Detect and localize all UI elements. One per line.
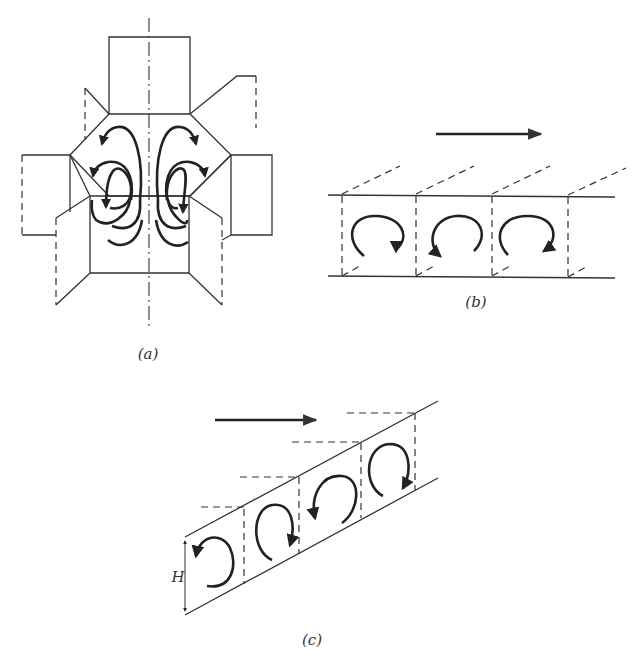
roll-cells-c — [196, 444, 409, 586]
channel-bottom-wall — [328, 276, 615, 278]
panel-b-label: (b) — [465, 293, 486, 311]
panel-c-label: (c) — [302, 631, 322, 649]
panel-a: (a) — [22, 18, 272, 363]
panel-b: (b) — [328, 134, 626, 311]
panel-a-label: (a) — [138, 345, 159, 363]
channel-lower-wall — [185, 478, 438, 615]
channel-upper-wall — [185, 401, 438, 537]
hexagon-face — [70, 114, 231, 196]
figure-canvas: (a) (b) — [0, 0, 644, 660]
channel-top-wall — [328, 195, 615, 197]
roll-cells — [352, 216, 553, 256]
height-label: H — [170, 568, 185, 586]
vortex-arrows-right — [156, 127, 205, 246]
right-face — [231, 155, 272, 235]
panel-c: H (c) — [170, 401, 438, 649]
cell-dividers — [342, 166, 626, 278]
